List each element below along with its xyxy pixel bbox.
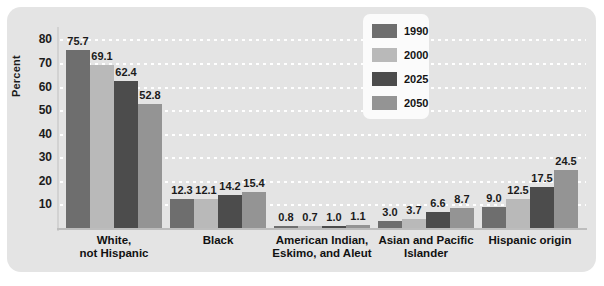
bar-groups: 75.769.162.452.812.312.114.215.40.80.71.… xyxy=(58,30,586,228)
bar-slot: 9.0 xyxy=(482,30,506,228)
bar-slot: 69.1 xyxy=(90,30,114,228)
bar-2025[interactable] xyxy=(322,226,346,228)
chart-root: 1020304050607080 Percent 75.769.162.452.… xyxy=(0,0,604,286)
y-tick-label-70: 70 xyxy=(26,57,52,69)
bar-2000[interactable] xyxy=(506,199,530,228)
legend-item-1990[interactable]: 1990 xyxy=(372,24,428,38)
category-label-line2: not Hispanic xyxy=(36,247,192,260)
bar-value-label: 14.2 xyxy=(219,181,240,192)
legend-label-2000: 2000 xyxy=(404,50,428,61)
legend-item-2050[interactable]: 2050 xyxy=(372,96,428,110)
bar-slot: 1.0 xyxy=(322,30,346,228)
legend: 1990200020252050 xyxy=(363,14,429,119)
y-axis-title: Percent xyxy=(10,55,22,97)
bar-value-label: 9.0 xyxy=(486,193,501,204)
y-tick-label-20: 20 xyxy=(26,175,52,187)
x-axis-baseline xyxy=(57,228,587,230)
bar-value-label: 12.3 xyxy=(171,185,192,196)
bar-group: 0.80.71.01.1 xyxy=(274,30,370,228)
category-label-line2: Islander xyxy=(348,247,504,260)
bar-value-label: 3.7 xyxy=(406,205,421,216)
bar-value-label: 15.4 xyxy=(243,178,264,189)
legend-swatch-2025 xyxy=(372,72,397,86)
bar-value-label: 3.0 xyxy=(382,207,397,218)
bar-value-label: 6.6 xyxy=(430,198,445,209)
bar-value-label: 69.1 xyxy=(91,51,112,62)
legend-item-2000[interactable]: 2000 xyxy=(372,48,428,62)
bar-value-label: 12.5 xyxy=(507,185,528,196)
bar-2050[interactable] xyxy=(450,208,474,229)
bar-group: 9.012.517.524.5 xyxy=(482,30,578,228)
y-tick-label-10: 10 xyxy=(26,198,52,210)
y-tick-label-60: 60 xyxy=(26,81,52,93)
y-tick-label-80: 80 xyxy=(26,33,52,45)
bar-slot: 12.1 xyxy=(194,30,218,228)
bar-2050[interactable] xyxy=(346,225,370,228)
bar-1990[interactable] xyxy=(170,199,194,228)
category-label-line1: Hispanic origin xyxy=(452,234,604,247)
legend-label-1990: 1990 xyxy=(404,26,428,37)
bar-group: 75.769.162.452.8 xyxy=(66,30,162,228)
bar-slot: 14.2 xyxy=(218,30,242,228)
bar-value-label: 52.8 xyxy=(139,90,160,101)
bar-2050[interactable] xyxy=(138,104,162,228)
category-label: Hispanic origin xyxy=(452,234,604,247)
bar-value-label: 75.7 xyxy=(67,36,88,47)
bar-value-label: 24.5 xyxy=(555,156,576,167)
bar-value-label: 12.1 xyxy=(195,185,216,196)
bar-value-label: 0.7 xyxy=(302,212,317,223)
bar-2025[interactable] xyxy=(114,81,138,228)
bar-value-label: 8.7 xyxy=(454,194,469,205)
legend-swatch-1990 xyxy=(372,24,397,38)
y-tick-label-50: 50 xyxy=(26,104,52,116)
bar-slot: 6.6 xyxy=(426,30,450,228)
bar-2000[interactable] xyxy=(402,219,426,228)
bar-value-label: 62.4 xyxy=(115,67,136,78)
legend-label-2025: 2025 xyxy=(404,74,428,85)
bar-slot: 17.5 xyxy=(530,30,554,228)
bar-1990[interactable] xyxy=(66,50,90,228)
bar-slot: 8.7 xyxy=(450,30,474,228)
legend-swatch-2050 xyxy=(372,96,397,110)
bar-slot: 24.5 xyxy=(554,30,578,228)
bar-2025[interactable] xyxy=(218,195,242,228)
bar-2025[interactable] xyxy=(426,212,450,228)
legend-swatch-2000 xyxy=(372,48,397,62)
bar-value-label: 1.0 xyxy=(326,212,341,223)
y-tick-label-30: 30 xyxy=(26,151,52,163)
bar-value-label: 17.5 xyxy=(531,173,552,184)
bar-2050[interactable] xyxy=(242,192,266,228)
bar-slot: 62.4 xyxy=(114,30,138,228)
bar-1990[interactable] xyxy=(482,207,506,228)
bar-slot: 0.8 xyxy=(274,30,298,228)
bar-2000[interactable] xyxy=(194,199,218,228)
bar-value-label: 1.1 xyxy=(350,211,365,222)
bar-slot: 12.3 xyxy=(170,30,194,228)
bar-slot: 0.7 xyxy=(298,30,322,228)
bar-2000[interactable] xyxy=(298,226,322,228)
bar-1990[interactable] xyxy=(274,226,298,228)
bar-group: 12.312.114.215.4 xyxy=(170,30,266,228)
bar-slot: 75.7 xyxy=(66,30,90,228)
bar-slot: 15.4 xyxy=(242,30,266,228)
bar-slot: 12.5 xyxy=(506,30,530,228)
y-tick-label-40: 40 xyxy=(26,128,52,140)
y-axis-ticks: 1020304050607080 xyxy=(24,30,52,228)
bar-1990[interactable] xyxy=(378,221,402,228)
legend-label-2050: 2050 xyxy=(404,98,428,109)
bar-2025[interactable] xyxy=(530,187,554,228)
legend-item-2025[interactable]: 2025 xyxy=(372,72,428,86)
bar-2000[interactable] xyxy=(90,65,114,228)
bar-slot: 52.8 xyxy=(138,30,162,228)
bar-2050[interactable] xyxy=(554,170,578,228)
bar-value-label: 0.8 xyxy=(278,212,293,223)
